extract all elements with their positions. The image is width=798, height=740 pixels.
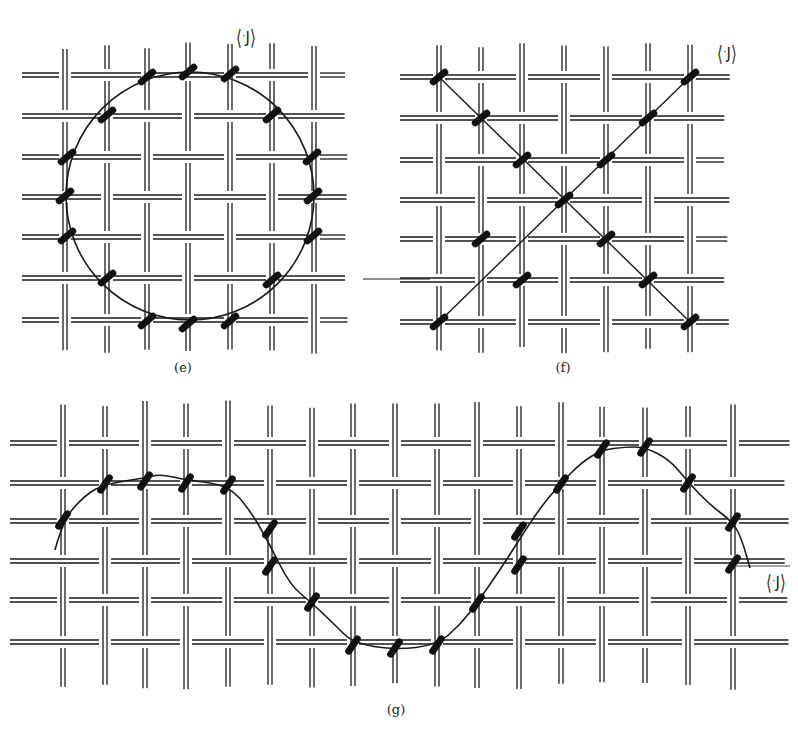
stitch-mark [261, 555, 279, 577]
stitch-mark [511, 270, 532, 290]
stitch-mark [724, 553, 742, 575]
stitch-mark [724, 511, 742, 533]
stitch-mark [302, 186, 323, 206]
panel-f-diagonal-stitch [363, 43, 730, 353]
bracket-left-icon: ⟨ [717, 41, 723, 66]
stitch-mark [177, 472, 195, 494]
bracket-left-icon: ⟨ [236, 25, 242, 50]
stitch-mark [428, 312, 449, 332]
stitch-mark [261, 518, 279, 540]
path-label-f: ⟨·J⟩ [717, 45, 737, 63]
stitch-mark [96, 268, 117, 288]
caption-e: (e) [174, 360, 192, 375]
caption-g: (g) [387, 702, 405, 717]
bracket-left-icon: ⟨ [766, 570, 772, 595]
stitch-mark [261, 105, 282, 125]
stitch-mark [344, 634, 362, 656]
bracket-right-icon: ⟩ [731, 41, 737, 66]
stitch-mark [54, 186, 75, 206]
stitch-mark [136, 311, 157, 331]
panel-e-circle-stitch [22, 43, 348, 354]
stitch-mark [510, 554, 528, 576]
path-label-e: ⟨·J⟩ [236, 29, 256, 47]
stitch-mark [470, 229, 491, 249]
caption-f: (f) [556, 360, 571, 375]
bracket-right-icon: ⟩ [780, 570, 786, 595]
bracket-right-icon: ⟩ [250, 25, 256, 50]
woven-grid-figure [0, 0, 798, 740]
stitch-mark [177, 314, 198, 334]
stitch-mark [302, 226, 323, 246]
stitch-mark [96, 105, 117, 125]
stitch-mark [468, 592, 486, 614]
stitch-mark [552, 473, 570, 495]
panel-g-sine-stitch [10, 400, 790, 689]
stitch-mark [595, 150, 616, 170]
stitch-mark [679, 67, 700, 87]
stitch-mark [511, 150, 532, 170]
stitch-mark [637, 108, 658, 128]
path-label-g: ⟨·J⟩ [766, 574, 786, 592]
